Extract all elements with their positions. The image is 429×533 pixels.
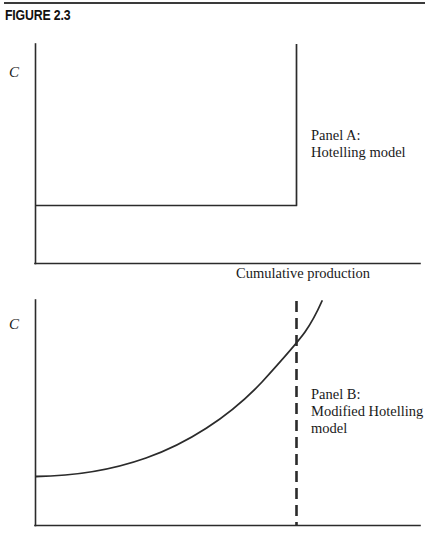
panel-b-cost-curve xyxy=(36,301,322,477)
panel-b-note: Panel B: Modified Hotelling model xyxy=(311,386,423,437)
panel-a-x-axis-caption: Cumulative production xyxy=(236,265,370,282)
panel-b-y-axis-label: C xyxy=(9,316,19,333)
figure-title: FIGURE 2.3 xyxy=(5,7,70,23)
panel-a-y-axis-label: C xyxy=(9,64,19,81)
panel-a-note: Panel A: Hotelling model xyxy=(311,127,406,161)
panel-a-cost-curve xyxy=(36,44,297,206)
figure-header-rule xyxy=(4,2,425,4)
